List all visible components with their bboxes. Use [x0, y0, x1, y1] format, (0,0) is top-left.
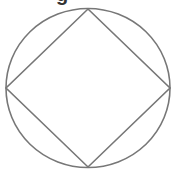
circle-outline	[6, 9, 170, 168]
inscribed-square-diagram	[0, 0, 186, 179]
inscribed-square	[6, 9, 170, 167]
